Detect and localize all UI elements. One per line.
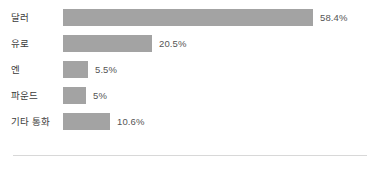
category-label-dollar: 달러 — [11, 12, 29, 24]
category-label-other-currencies: 기타 통화 — [11, 116, 50, 128]
value-label-other-currencies: 10.6% — [117, 116, 144, 128]
currency-share-bar-chart: 달러 58.4% 유로 20.5% 엔 5.5% 파운드 5% — [0, 0, 380, 170]
bar-pound — [63, 87, 86, 104]
bar-area-yen: 5.5% — [63, 61, 117, 78]
table-row: 기타 통화 10.6% — [0, 113, 380, 130]
bar-euro — [63, 35, 152, 52]
bar-area-other-currencies: 10.6% — [63, 113, 144, 130]
table-row: 파운드 5% — [0, 87, 380, 104]
bar-yen — [63, 61, 88, 78]
value-label-yen: 5.5% — [95, 64, 117, 76]
value-label-euro: 20.5% — [159, 38, 186, 50]
category-label-pound: 파운드 — [11, 90, 38, 102]
category-label-euro: 유로 — [11, 38, 29, 50]
value-label-pound: 5% — [93, 90, 107, 102]
bar-dollar — [63, 9, 313, 26]
bar-area-dollar: 58.4% — [63, 9, 347, 26]
category-label-yen: 엔 — [11, 64, 20, 76]
value-label-dollar: 58.4% — [320, 12, 347, 24]
bar-other-currencies — [63, 113, 110, 130]
table-row: 엔 5.5% — [0, 61, 380, 78]
footer-divider — [13, 155, 367, 156]
bar-area-pound: 5% — [63, 87, 107, 104]
table-row: 유로 20.5% — [0, 35, 380, 52]
chart-rows: 달러 58.4% 유로 20.5% 엔 5.5% 파운드 5% — [0, 9, 380, 139]
table-row: 달러 58.4% — [0, 9, 380, 26]
bar-area-euro: 20.5% — [63, 35, 186, 52]
